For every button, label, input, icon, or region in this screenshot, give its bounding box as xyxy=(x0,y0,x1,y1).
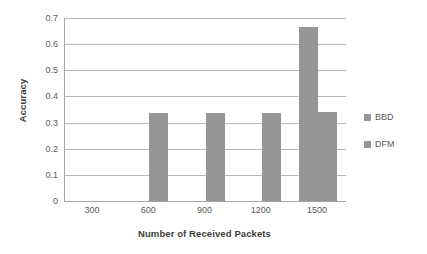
x-axis-tick-label: 1200 xyxy=(233,205,289,215)
bar-dfm-1500 xyxy=(318,112,337,201)
bar-dfm-900 xyxy=(206,113,225,201)
bar-dfm-600 xyxy=(149,113,168,201)
bar-groups xyxy=(65,18,346,201)
legend-label: DFM xyxy=(375,139,395,149)
bar-dfm-1200 xyxy=(262,113,281,201)
bar-group xyxy=(121,18,177,201)
y-axis-tick-label: 0.1 xyxy=(45,170,58,180)
bar-group xyxy=(65,18,121,201)
x-axis-tick-label: 600 xyxy=(120,205,176,215)
y-axis-tick-labels: 0.70.60.50.40.30.20.10 xyxy=(30,18,58,201)
legend-swatch-icon xyxy=(364,114,371,121)
legend-item-dfm: DFM xyxy=(364,139,395,149)
plot-area xyxy=(64,18,346,202)
x-axis-tick-label: 300 xyxy=(64,205,120,215)
x-axis-title: Number of Received Packets xyxy=(64,228,345,239)
y-axis-tick-label: 0.4 xyxy=(45,91,58,101)
y-axis-tick-label: 0.6 xyxy=(45,39,58,49)
x-axis-tick-label: 900 xyxy=(176,205,232,215)
y-axis-tick-label: 0.5 xyxy=(45,65,58,75)
y-axis-tick-label: 0.3 xyxy=(45,118,58,128)
y-axis-title-label: Accuracy xyxy=(18,78,29,122)
bar-chart: Accuracy 0.70.60.50.40.30.20.10 30060090… xyxy=(0,0,427,254)
legend: BBDDFM xyxy=(364,112,395,149)
x-axis-tick-labels: 30060090012001500 xyxy=(64,205,345,215)
legend-label: BBD xyxy=(375,112,394,122)
y-axis-tick-label: 0.7 xyxy=(45,13,58,23)
bar-bbd-1500 xyxy=(299,27,318,201)
bar-group xyxy=(177,18,233,201)
legend-swatch-icon xyxy=(364,141,371,148)
y-axis-tick-label: 0 xyxy=(53,196,58,206)
bar-group xyxy=(234,18,290,201)
x-axis-tick-label: 1500 xyxy=(289,205,345,215)
legend-item-bbd: BBD xyxy=(364,112,395,122)
bar-group xyxy=(290,18,346,201)
y-axis-tick-label: 0.2 xyxy=(45,144,58,154)
